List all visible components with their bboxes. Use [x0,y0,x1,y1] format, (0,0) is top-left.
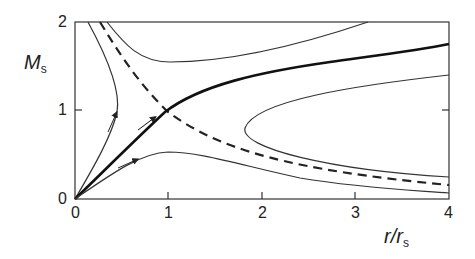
y-tick-1: 1 [58,102,67,118]
x-axis-label: r/rs [384,226,409,246]
y-tick-0: 0 [58,191,67,207]
y-tick-2: 2 [58,14,67,30]
curve-dashed [100,22,449,185]
arrow-icon [118,160,136,168]
x-tick-3: 3 [351,205,360,221]
x-tick-2: 2 [258,205,267,221]
x-tick-0: 0 [71,205,80,221]
curve-right-loop [245,75,449,177]
figure: 2 1 0 0 1 2 3 4 Ms r/rs [0,0,475,259]
curve-thick [75,44,449,199]
y-axis-label: Ms [24,52,47,72]
x-tick-1: 1 [164,205,173,221]
curve-upper-thin [107,22,368,62]
x-tick-4: 4 [444,205,453,221]
curve-lower-thin [75,152,449,199]
